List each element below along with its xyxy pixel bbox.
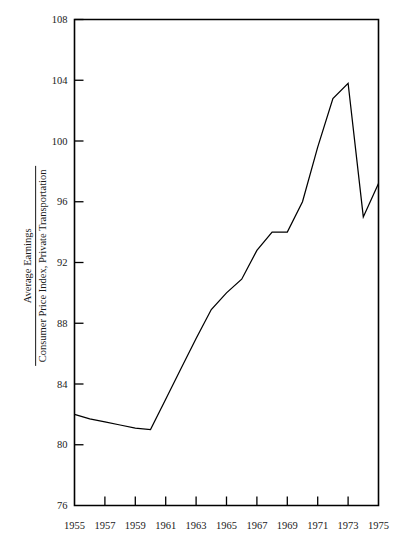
y-axis-tick-label: 76 bbox=[57, 500, 68, 511]
y-axis-tick-label: 92 bbox=[57, 257, 68, 268]
y-axis-tick-label: 100 bbox=[52, 136, 68, 147]
y-axis-label-denominator: Consumer Price Index, Private Transporta… bbox=[36, 165, 50, 366]
x-axis-tick-label: 1967 bbox=[246, 520, 267, 531]
y-axis-tick-label: 104 bbox=[52, 75, 69, 86]
x-axis-tick-label: 1971 bbox=[307, 520, 328, 531]
chart-figure: Average Earnings Consumer Price Index, P… bbox=[0, 0, 398, 544]
x-axis-tick-label: 1955 bbox=[64, 520, 85, 531]
x-axis-tick-label: 1973 bbox=[338, 520, 359, 531]
x-axis-tick-label: 1963 bbox=[186, 520, 207, 531]
y-axis-tick-label: 108 bbox=[52, 14, 68, 25]
y-axis-tick-label: 80 bbox=[57, 439, 68, 450]
y-axis-tick-label: 96 bbox=[57, 196, 68, 207]
x-axis-tick-label: 1969 bbox=[277, 520, 298, 531]
plot-area: 768084889296100104108 195519571959196119… bbox=[0, 0, 398, 544]
x-axis-tick-label: 1975 bbox=[368, 520, 389, 531]
y-axis-tick-group bbox=[75, 20, 84, 445]
y-axis-label-fraction: Average Earnings Consumer Price Index, P… bbox=[22, 165, 50, 366]
x-axis-tick-label: 1965 bbox=[216, 520, 237, 531]
y-axis-tick-label: 88 bbox=[57, 318, 68, 329]
y-axis-label-numerator: Average Earnings bbox=[22, 165, 35, 366]
y-axis-tick-labels: 768084889296100104108 bbox=[52, 14, 69, 511]
x-axis-tick-group bbox=[105, 497, 348, 506]
data-series-line bbox=[75, 83, 379, 429]
axis-frame bbox=[75, 20, 379, 506]
x-axis-tick-label: 1959 bbox=[125, 520, 146, 531]
x-axis-tick-label: 1961 bbox=[155, 520, 176, 531]
x-axis-tick-labels: 1955195719591961196319651967196919711973… bbox=[64, 520, 389, 531]
y-axis-label: Average Earnings Consumer Price Index, P… bbox=[8, 0, 48, 544]
x-axis-tick-label: 1957 bbox=[94, 520, 115, 531]
y-axis-tick-label: 84 bbox=[57, 379, 68, 390]
